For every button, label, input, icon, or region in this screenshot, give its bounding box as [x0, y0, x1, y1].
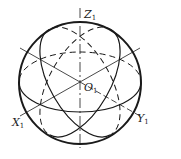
- sphere-diagram: Z1 O1 X1 Y1: [0, 0, 181, 159]
- y1-label: Y1: [137, 112, 149, 126]
- o1-label: O1: [84, 81, 98, 95]
- x1-label: X1: [11, 116, 24, 130]
- z1-label: Z1: [83, 8, 96, 22]
- x-axis-back-line: [20, 48, 80, 82]
